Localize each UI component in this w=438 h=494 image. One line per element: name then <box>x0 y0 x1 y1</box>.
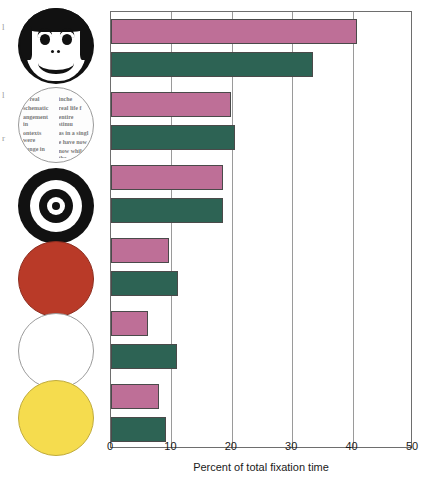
margin-note-3: r <box>2 133 5 143</box>
bar-bullseye-pink <box>111 165 223 190</box>
stimulus-yellow-disc-icon <box>18 380 94 456</box>
face-eye-left <box>40 34 50 45</box>
bar-white-disc-pink <box>111 311 148 336</box>
margin-note-1: l <box>2 22 5 32</box>
chart-page: l l r of real <box>0 0 438 494</box>
newsprint-line: e have now <box>59 139 90 146</box>
bar-yellow-disc-pink <box>111 384 159 409</box>
bar-series <box>111 12 411 447</box>
x-tick-label-10: 10 <box>164 440 176 452</box>
x-tick-label-40: 40 <box>345 440 357 452</box>
bar-newsprint-green <box>111 125 235 150</box>
x-tick-label-0: 0 <box>107 440 113 452</box>
stimulus-white-disc-icon <box>18 313 94 389</box>
stimulus-face-icon <box>18 8 94 84</box>
yellow-disc-icon <box>18 380 94 456</box>
bar-face-pink <box>111 19 357 44</box>
plot-frame <box>110 11 412 448</box>
stimulus-icon-column: of real schematic angement in ontexts we… <box>18 8 98 448</box>
bar-yellow-disc-green <box>111 417 166 442</box>
newsprint-line: inche <box>59 96 90 103</box>
newsprint-column-right: inche real life f entire stimu as in a s… <box>59 92 90 158</box>
bar-red-disc-pink <box>111 238 169 263</box>
face-smile <box>38 52 74 74</box>
newsprint-line: angement in <box>23 114 54 128</box>
face-hair-left <box>20 26 32 60</box>
stimulus-newsprint-icon: of real schematic angement in ontexts we… <box>18 87 94 163</box>
newsprint-line: ontexts were <box>23 130 54 144</box>
newsprint-line: as in a singl <box>59 130 90 137</box>
bullseye-icon <box>18 168 94 244</box>
bar-red-disc-green <box>111 271 178 296</box>
bar-face-green <box>111 52 313 77</box>
bar-newsprint-pink <box>111 92 231 117</box>
x-tick-label-20: 20 <box>225 440 237 452</box>
face-eye-right <box>62 34 72 45</box>
white-disc-icon <box>18 313 94 389</box>
newsprint-line: schematic <box>23 105 54 112</box>
face-hair-right <box>80 26 92 60</box>
newsprint-line: real life f <box>59 105 90 112</box>
face-icon <box>18 8 94 84</box>
newsprint-column-left: of real schematic angement in ontexts we… <box>23 92 54 158</box>
bullseye-center <box>52 202 60 210</box>
x-axis-title: Percent of total fixation time <box>110 461 412 473</box>
stimulus-bullseye-icon <box>18 168 94 244</box>
newsprint-line: hange in the <box>23 146 54 158</box>
newsprint-line: of real <box>23 96 54 103</box>
margin-note-2: l <box>2 90 5 100</box>
x-tick-label-30: 30 <box>285 440 297 452</box>
newsprint-icon: of real schematic angement in ontexts we… <box>18 87 94 163</box>
stimulus-red-disc-icon <box>18 241 94 317</box>
bar-bullseye-green <box>111 198 223 223</box>
red-disc-icon <box>18 241 94 317</box>
newsprint-line: now while the <box>59 148 90 158</box>
bar-white-disc-green <box>111 344 177 369</box>
x-tick-label-50: 50 <box>406 440 418 452</box>
newsprint-line: entire stimu <box>59 114 90 128</box>
